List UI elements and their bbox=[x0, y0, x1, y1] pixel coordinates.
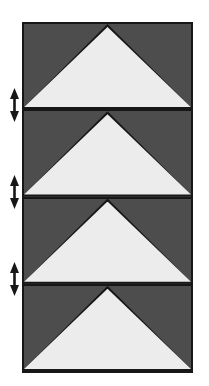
triangle-panel-2 bbox=[24, 111, 191, 198]
panel-stack bbox=[22, 22, 193, 373]
triangle-panel-1 bbox=[24, 24, 191, 111]
double-headed-vertical-arrow-icon bbox=[8, 88, 21, 122]
double-headed-vertical-arrow-icon bbox=[8, 262, 21, 296]
double-headed-vertical-arrow-icon bbox=[8, 175, 21, 209]
triangle-fill-2 bbox=[24, 114, 191, 194]
triangle-fill-3 bbox=[24, 202, 191, 282]
technical-figure bbox=[0, 0, 209, 386]
triangle-panel-4 bbox=[24, 286, 191, 371]
triangle-panel-3 bbox=[24, 199, 191, 286]
triangle-fill-1 bbox=[24, 27, 191, 107]
triangle-fill-4 bbox=[24, 289, 191, 369]
